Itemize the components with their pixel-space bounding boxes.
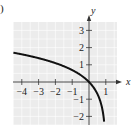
svg-text:−2: −2 xyxy=(50,86,61,97)
svg-text:−2: −2 xyxy=(73,111,84,122)
svg-text:−1: −1 xyxy=(73,94,84,105)
svg-text:1: 1 xyxy=(79,59,84,70)
svg-text:y: y xyxy=(90,5,96,16)
chart-plot: −4−3−2−11321−1−2xy xyxy=(0,0,133,135)
svg-text:x: x xyxy=(125,76,131,87)
svg-text:2: 2 xyxy=(79,42,84,53)
svg-text:3: 3 xyxy=(79,25,84,36)
svg-text:1: 1 xyxy=(103,86,108,97)
svg-text:−4: −4 xyxy=(16,86,27,97)
svg-text:−3: −3 xyxy=(33,86,44,97)
